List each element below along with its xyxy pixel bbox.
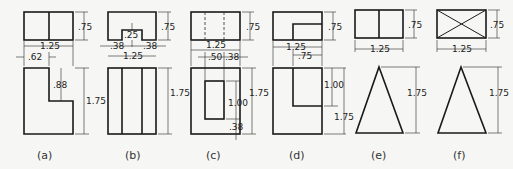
- dim-left-b: .38: [110, 41, 125, 51]
- top-view-c: [191, 12, 240, 40]
- label-a: (a): [37, 149, 52, 162]
- dim-hole-width-c: .50: [208, 52, 223, 62]
- dim-front-height-f: 1.75: [489, 88, 509, 98]
- label-b: (b): [125, 149, 141, 162]
- front-view-e: [356, 67, 403, 133]
- hole-c: [205, 81, 224, 119]
- dim-step-width-d: .75: [298, 51, 312, 61]
- dim-top-height-c: .75: [246, 22, 260, 32]
- dim-slot-depth-b: .25: [124, 30, 138, 40]
- orthographic-drawing-sheet: .75 1.25 .62 .88 1.75 (a) .75 .25 .38 .3…: [0, 0, 513, 169]
- label-e: (e): [371, 149, 386, 162]
- dim-front-height-e: 1.75: [407, 88, 427, 98]
- dim-hole-offset-c: .38: [225, 52, 240, 62]
- dim-width-b: 1.25: [123, 51, 143, 61]
- label-f: (f): [453, 149, 465, 162]
- front-view-a: [24, 68, 73, 134]
- label-d: (d): [289, 149, 305, 162]
- dim-width-a: 1.25: [40, 41, 60, 51]
- dim-right-b: .38: [143, 41, 158, 51]
- view-e: .75 1.25 1.75 (e): [355, 10, 427, 162]
- dim-width-f: 1.25: [452, 44, 472, 54]
- dim-top-height-e: .75: [408, 20, 422, 30]
- view-f: .75 1.25 1.75 (f): [437, 10, 509, 162]
- drawing-canvas: .75 1.25 .62 .88 1.75 (a) .75 .25 .38 .3…: [0, 0, 513, 169]
- dim-front-height-a: 1.75: [86, 96, 106, 106]
- dim-offset-a: .62: [28, 52, 42, 62]
- label-c: (c): [206, 149, 221, 162]
- dim-width-c: 1.25: [206, 40, 226, 50]
- front-view-f: [438, 67, 486, 133]
- dim-width-e: 1.25: [370, 44, 390, 54]
- dim-bottom-c: .38: [229, 122, 244, 132]
- front-view-d: [273, 68, 322, 134]
- view-d: .75 1.25 .75 1.00 1.75 (d): [273, 12, 354, 162]
- dim-notch-depth-a: .88: [53, 80, 68, 90]
- view-b: .75 .25 .38 .38 1.25 1.75 (b): [100, 12, 190, 162]
- dim-front-height-b: 1.75: [170, 88, 190, 98]
- front-view-b: [108, 68, 156, 134]
- view-c: .75 1.25 .50 .38 1.75 1.00 .38 (c): [191, 12, 269, 162]
- dim-hole-height-c: 1.00: [228, 98, 248, 108]
- dim-step-height-d: 1.00: [324, 80, 344, 90]
- dim-top-height-d: .75: [328, 22, 342, 32]
- dim-front-height-c: 1.75: [249, 88, 269, 98]
- dim-front-height-d: 1.75: [334, 112, 354, 122]
- top-view-d: [273, 12, 322, 40]
- dim-top-height-f: .75: [490, 20, 504, 30]
- dim-top-height-b: .75: [161, 22, 175, 32]
- dim-top-height-a: .75: [78, 22, 92, 32]
- view-a: .75 1.25 .62 .88 1.75 (a): [16, 12, 106, 162]
